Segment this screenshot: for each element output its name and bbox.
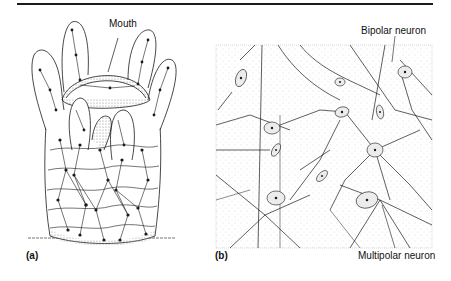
panel-a-label: (a) — [26, 250, 38, 261]
neuron-network-illustration — [216, 36, 432, 248]
mouth-label: Mouth — [109, 18, 137, 29]
hydra-illustration — [28, 22, 176, 246]
bipolar-neuron-label: Bipolar neuron — [361, 25, 426, 36]
figure-illustration — [0, 0, 451, 281]
multipolar-neuron-label: Multipolar neuron — [358, 250, 435, 261]
panel-b-label: (b) — [215, 250, 228, 261]
